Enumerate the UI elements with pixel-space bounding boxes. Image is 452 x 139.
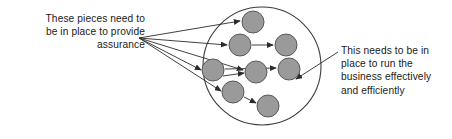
node-1 — [242, 11, 264, 33]
fan-arrow-1 — [139, 21, 240, 38]
node-6 — [278, 58, 300, 80]
left-annotation-text: These pieces need to be in place to prov… — [12, 12, 145, 52]
node-4 — [202, 59, 224, 81]
node-2 — [229, 34, 251, 56]
right-annotation-text: This needs to be in place to run the bus… — [341, 44, 449, 97]
node-group — [202, 11, 300, 117]
node-5 — [245, 61, 267, 83]
internal-arrow-3 — [223, 73, 244, 76]
node-8 — [257, 95, 279, 117]
internal-arrow-4 — [244, 97, 256, 103]
node-3 — [275, 34, 297, 56]
fan-arrow-2 — [139, 38, 227, 45]
diagram-canvas: These pieces need to be in place to prov… — [0, 0, 452, 139]
fan-arrow-group — [139, 21, 243, 91]
pointer-arrow — [296, 52, 338, 79]
node-7 — [222, 81, 244, 103]
